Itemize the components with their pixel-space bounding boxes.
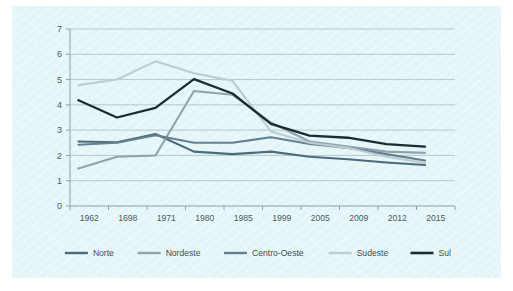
legend-label-sul: Sul <box>438 248 451 258</box>
x-tick-label: 2015 <box>426 213 445 223</box>
x-tick-label: 1698 <box>118 213 137 223</box>
x-tick-marks-group <box>70 206 455 210</box>
line-chart: 01234567 1962169819711980198519992005200… <box>0 0 513 291</box>
x-tick-label: 2009 <box>349 213 368 223</box>
y-tick-label: 6 <box>57 49 62 59</box>
x-tick-label: 1962 <box>80 213 99 223</box>
y-tick-label: 2 <box>57 151 62 161</box>
series-line-nordeste <box>78 91 425 169</box>
chart-legend: NorteNordesteCentro-OesteSudesteSul <box>65 248 451 258</box>
y-tick-label: 1 <box>57 176 62 186</box>
series-line-sudeste <box>78 61 425 163</box>
x-tick-label: 1999 <box>272 213 291 223</box>
y-tick-label: 0 <box>57 201 62 211</box>
x-tick-label: 1980 <box>195 213 214 223</box>
x-tick-label: 1985 <box>234 213 253 223</box>
y-tick-label: 7 <box>57 24 62 34</box>
y-tick-label: 5 <box>57 75 62 85</box>
x-tick-label: 2005 <box>311 213 330 223</box>
y-tick-label: 4 <box>57 100 62 110</box>
legend-label-centro-oeste: Centro-Oeste <box>252 248 304 258</box>
y-tick-label: 3 <box>57 125 62 135</box>
x-tick-label: 2012 <box>388 213 407 223</box>
x-tick-labels-group: 1962169819711980198519992005200920122015 <box>80 213 446 223</box>
y-tick-labels-group: 01234567 <box>57 24 62 211</box>
chart-figure: 01234567 1962169819711980198519992005200… <box>0 0 513 291</box>
series-line-sul <box>78 79 425 147</box>
legend-label-nordeste: Nordeste <box>166 248 201 258</box>
series-lines-group <box>78 61 425 168</box>
x-tick-label: 1971 <box>157 213 176 223</box>
legend-label-sudeste: Sudeste <box>357 248 389 258</box>
legend-label-norte: Norte <box>93 248 114 258</box>
